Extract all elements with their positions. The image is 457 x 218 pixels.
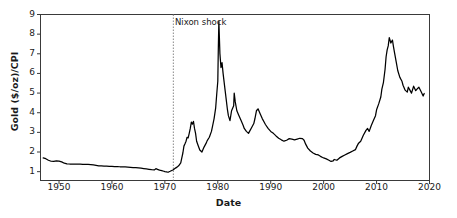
y-tick-label: 2 xyxy=(21,146,35,156)
x-axis-label: Date xyxy=(0,197,457,208)
y-tick-label: 4 xyxy=(21,107,35,117)
nixon-shock-annotation: Nixon shock xyxy=(175,17,226,27)
y-tick-label: 7 xyxy=(21,48,35,58)
y-axis-label: Gold ($/oz)/CPI xyxy=(9,52,20,131)
y-tick-label: 5 xyxy=(21,87,35,97)
chart-figure: Gold ($/oz)/CPI Date Nixon shock 1950196… xyxy=(0,0,457,218)
y-tick-label: 1 xyxy=(21,166,35,176)
x-tick-label: 1950 xyxy=(39,182,79,192)
x-tick-label: 1960 xyxy=(92,182,132,192)
x-tick-label: 2010 xyxy=(357,182,397,192)
x-tick-label: 1990 xyxy=(251,182,291,192)
x-tick-label: 1970 xyxy=(145,182,185,192)
y-tick-label: 6 xyxy=(21,67,35,77)
y-tick-label: 9 xyxy=(21,9,35,19)
y-tick-label: 3 xyxy=(21,126,35,136)
x-tick-label: 2000 xyxy=(304,182,344,192)
x-tick-label: 1980 xyxy=(198,182,238,192)
y-axis-label-wrapper: Gold ($/oz)/CPI xyxy=(3,22,22,162)
y-tick-label: 8 xyxy=(21,28,35,38)
x-tick-label: 2020 xyxy=(410,182,450,192)
